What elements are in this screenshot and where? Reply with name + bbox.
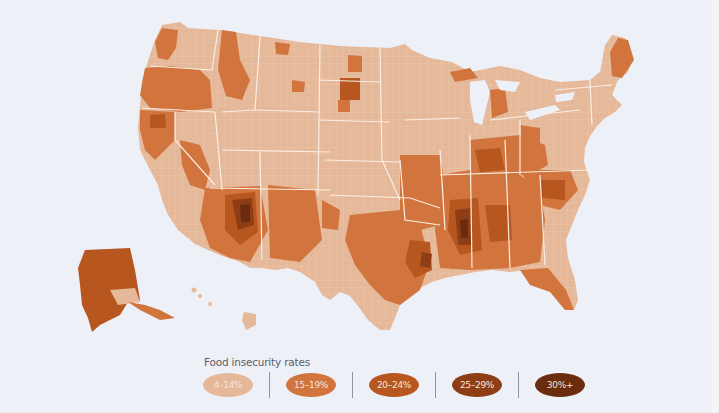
us-food-insecurity-map xyxy=(0,0,712,413)
legend-divider xyxy=(269,372,270,398)
legend-item-15-19: 15–19% xyxy=(286,373,336,397)
legend-item-25-29: 25–29% xyxy=(452,373,502,397)
legend: 4–14% 15–19% 20–24% 25–29% 30%+ xyxy=(203,373,585,397)
legend-title: Food insecurity rates xyxy=(204,356,310,368)
legend-item-20-24: 20–24% xyxy=(369,373,419,397)
legend-divider xyxy=(435,372,436,398)
legend-divider xyxy=(518,372,519,398)
legend-item-30-plus: 30%+ xyxy=(535,373,585,397)
legend-divider xyxy=(352,372,353,398)
page-edge xyxy=(712,0,719,413)
hawaii xyxy=(192,288,257,331)
legend-item-4-14: 4–14% xyxy=(203,373,253,397)
alaska xyxy=(78,248,175,332)
